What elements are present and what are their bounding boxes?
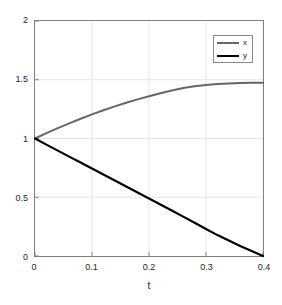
x-tick-label: 0.3 — [200, 263, 213, 272]
legend-swatch-x — [217, 42, 239, 44]
legend[interactable]: x y — [213, 35, 253, 63]
y-tick-label: 1.5 — [0, 75, 28, 84]
y-tick-label: 2 — [0, 16, 28, 25]
plot-area[interactable]: x y — [34, 20, 264, 257]
x-tick-label: 0 — [31, 263, 36, 272]
legend-entry-x[interactable]: x — [214, 36, 252, 49]
y-tick-label: 0.5 — [0, 193, 28, 202]
legend-label-x: x — [243, 39, 247, 47]
y-tick-label: 0 — [0, 253, 28, 262]
legend-entry-y[interactable]: y — [214, 49, 252, 62]
legend-label-y: y — [243, 52, 247, 60]
y-tick-label: 1 — [0, 134, 28, 143]
figure-canvas: 00.511.52 00.10.20.30.4 x y t — [0, 0, 282, 305]
legend-swatch-y — [217, 55, 239, 57]
x-tick-label: 0.2 — [143, 263, 156, 272]
series-line-x — [35, 83, 263, 139]
x-tick-label: 0.1 — [85, 263, 98, 272]
x-tick-label: 0.4 — [258, 263, 271, 272]
series-line-y — [35, 139, 263, 257]
x-axis-label: t — [148, 281, 151, 291]
